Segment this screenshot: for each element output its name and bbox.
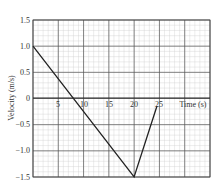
- y-tick: 0: [26, 94, 30, 103]
- x-tick: 20: [130, 100, 138, 109]
- velocity-line: [33, 46, 157, 177]
- y-tick: 1.5: [20, 16, 30, 25]
- x-tick: 25: [155, 100, 163, 109]
- y-tick: 0.5: [20, 68, 30, 77]
- y-tick: −1.0: [15, 146, 30, 155]
- y-tick: −0.5: [15, 120, 30, 129]
- x-tick: 15: [105, 100, 113, 109]
- x-tick: 10: [80, 100, 88, 109]
- y-axis-label: Velocity (m/s): [7, 75, 16, 121]
- y-tick: 1.0: [20, 42, 30, 51]
- y-tick: −1.5: [15, 173, 30, 182]
- y-tick-labels: 1.5 1.0 0.5 0 −0.5 −1.0 −1.5: [15, 16, 30, 182]
- x-tick-labels: 5 10 15 20 25: [56, 100, 163, 109]
- x-tick: 5: [56, 100, 60, 109]
- x-axis-label: Time (s): [179, 100, 206, 109]
- velocity-time-chart: 1.5 1.0 0.5 0 −0.5 −1.0 −1.5 5 10 15 20 …: [0, 0, 216, 185]
